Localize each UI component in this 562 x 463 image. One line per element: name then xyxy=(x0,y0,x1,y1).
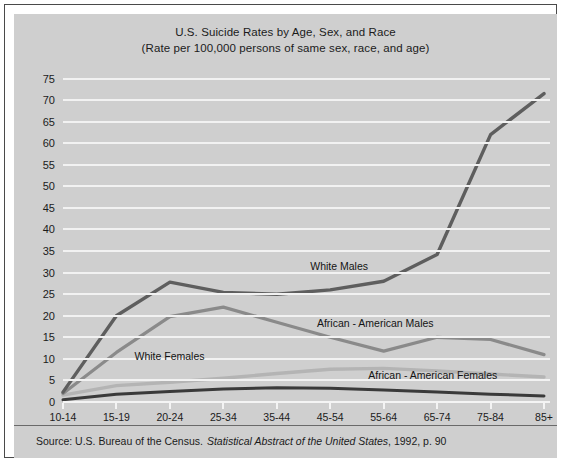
x-axis-tick-label: 45-54 xyxy=(304,412,356,423)
y-axis-tick-label: 40 xyxy=(29,224,55,234)
gridline xyxy=(63,185,550,187)
series-label-african-american-males: African - American Males xyxy=(317,318,434,329)
gridline xyxy=(63,272,550,274)
y-axis-tick-label: 50 xyxy=(29,181,55,191)
source-note-bar: Source: U.S. Bureau of the Census.Statis… xyxy=(14,425,557,458)
y-axis-tick-label: 30 xyxy=(29,268,55,278)
y-axis-tick-label: 60 xyxy=(29,138,55,148)
figure-outer-frame: U.S. Suicide Rates by Age, Sex, and Race… xyxy=(4,4,557,458)
x-axis-tick-label: 55-64 xyxy=(358,412,410,423)
series-line-african-american-females xyxy=(63,388,544,400)
gridline xyxy=(63,142,550,144)
gridline xyxy=(63,250,550,252)
figure-plot-field: U.S. Suicide Rates by Age, Sex, and Race… xyxy=(14,14,557,458)
plot-area: 05101520253035404550556065707510-1415-19… xyxy=(14,14,557,458)
y-axis-tick-label: 65 xyxy=(29,117,55,127)
y-axis-tick-label: 20 xyxy=(29,311,55,321)
x-axis-tick-mark xyxy=(169,403,171,409)
y-axis-tick-label: 0 xyxy=(29,397,55,407)
gridline xyxy=(63,336,550,338)
x-axis-tick-mark xyxy=(62,403,64,409)
source-italic-title: Statistical Abstract of the United State… xyxy=(207,435,388,447)
series-lines-svg xyxy=(14,14,557,458)
y-axis-tick-label: 75 xyxy=(29,74,55,84)
source-suffix: , 1992, p. 90 xyxy=(388,435,446,447)
series-label-african-american-females: African - American Females xyxy=(368,370,497,381)
source-prefix: Source: U.S. Bureau of the Census. xyxy=(36,435,203,447)
series-line-white-males xyxy=(63,94,544,393)
gridline xyxy=(63,293,550,295)
x-axis-tick-label: 20-24 xyxy=(144,412,196,423)
source-note: Source: U.S. Bureau of the Census.Statis… xyxy=(36,435,446,447)
x-axis-tick-mark xyxy=(543,403,545,409)
x-axis-tick-label: 65-74 xyxy=(411,412,463,423)
y-axis-tick-label: 25 xyxy=(29,289,55,299)
x-axis-tick-label: 25-34 xyxy=(197,412,249,423)
figure-container: U.S. Suicide Rates by Age, Sex, and Race… xyxy=(0,0,562,463)
gridline xyxy=(63,207,550,209)
y-axis-tick-label: 35 xyxy=(29,246,55,256)
y-axis-tick-label: 45 xyxy=(29,203,55,213)
x-axis-tick-label: 15-19 xyxy=(90,412,142,423)
x-axis-line xyxy=(63,401,550,403)
gridline xyxy=(63,164,550,166)
x-axis-tick-mark xyxy=(115,403,117,409)
y-axis-tick-label: 70 xyxy=(29,95,55,105)
gridline xyxy=(63,78,550,80)
y-axis-tick-label: 55 xyxy=(29,160,55,170)
gridline xyxy=(63,99,550,101)
y-axis-tick-label: 10 xyxy=(29,354,55,364)
x-axis-tick-label: 10-14 xyxy=(37,412,89,423)
gridline xyxy=(63,228,550,230)
x-axis-tick-mark xyxy=(329,403,331,409)
x-axis-tick-label: 75-84 xyxy=(465,412,517,423)
y-axis-tick-label: 5 xyxy=(29,375,55,385)
series-label-white-males: White Males xyxy=(310,261,368,272)
x-axis-tick-mark xyxy=(436,403,438,409)
x-axis-tick-mark xyxy=(490,403,492,409)
series-label-white-females: White Females xyxy=(135,351,205,362)
x-axis-tick-label: 85+ xyxy=(518,412,562,423)
x-axis-tick-label: 35-44 xyxy=(251,412,303,423)
x-axis-tick-mark xyxy=(222,403,224,409)
x-axis-tick-mark xyxy=(276,403,278,409)
gridline xyxy=(63,121,550,123)
x-axis-tick-mark xyxy=(383,403,385,409)
y-axis-tick-label: 15 xyxy=(29,332,55,342)
gridline xyxy=(63,315,550,317)
